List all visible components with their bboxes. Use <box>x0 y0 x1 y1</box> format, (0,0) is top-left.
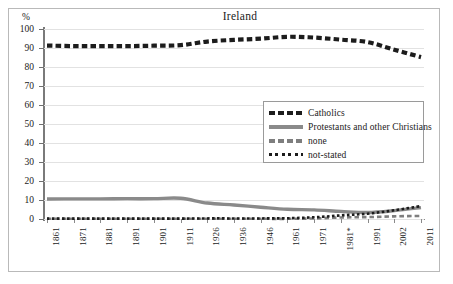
y-axis-tick-label: 60 <box>0 100 34 110</box>
legend-line-sample <box>269 139 303 143</box>
y-axis-tick-label: 70 <box>0 81 34 91</box>
x-axis-tick-mark <box>181 219 182 223</box>
y-axis-tick-label: 30 <box>0 157 34 167</box>
x-axis-tick-label: 1991 <box>372 227 382 246</box>
series-line-protestants-and-other-christians <box>47 198 421 213</box>
legend-line-sample <box>269 125 303 129</box>
x-axis-tick-label: 1861 <box>51 227 61 246</box>
y-axis-tick-label: 0 <box>0 214 34 224</box>
legend-item-catholics[interactable]: Catholics <box>269 106 345 119</box>
x-axis-tick-label: 1901 <box>158 227 168 246</box>
x-axis-tick-mark <box>341 219 342 223</box>
x-axis-tick-label: 2011 <box>425 227 435 245</box>
legend-item-none[interactable]: none <box>269 134 327 147</box>
x-axis-tick-label: 1926 <box>211 227 221 246</box>
x-axis-tick-label: 1911 <box>185 227 195 245</box>
y-axis-tick-label: 100 <box>0 24 34 34</box>
x-axis-tick-label: 1971 <box>318 227 328 246</box>
x-axis-tick-label: 1871 <box>78 227 88 246</box>
chart-figure: Ireland % 1009080706050403020100 1861187… <box>0 0 453 284</box>
legend-item-label: none <box>308 136 327 146</box>
y-axis-unit-label: % <box>22 12 30 22</box>
chart-legend: CatholicsProtestants and other Christian… <box>263 101 424 163</box>
legend-swatch-icon <box>269 121 303 132</box>
y-axis-tick-label: 90 <box>0 43 34 53</box>
x-axis-tick-mark <box>421 219 422 223</box>
legend-item-not-stated[interactable]: not-stated <box>269 148 346 161</box>
x-axis-tick-label: 1946 <box>265 227 275 246</box>
y-axis-tick-label: 50 <box>0 119 34 129</box>
x-axis-tick-mark <box>394 219 395 223</box>
legend-line-sample <box>269 153 303 156</box>
legend-item-protestants-and-other-christians[interactable]: Protestants and other Christians <box>269 120 432 133</box>
x-axis-tick-label: 1881 <box>104 227 114 246</box>
x-axis-tick-mark <box>314 219 315 223</box>
x-axis-tick-label: 1981* <box>345 227 355 251</box>
x-axis-tick-label: 1936 <box>238 227 248 246</box>
x-axis-tick-label: 2002 <box>398 227 408 246</box>
legend-swatch-icon <box>269 107 303 118</box>
x-axis-tick-label: 1961 <box>291 227 301 246</box>
series-line-catholics <box>47 37 421 57</box>
x-axis-tick-mark <box>368 219 369 223</box>
legend-item-label: Catholics <box>308 108 345 118</box>
y-axis-tick-mark <box>39 219 44 220</box>
legend-swatch-icon <box>269 135 303 146</box>
legend-swatch-icon <box>269 149 303 160</box>
y-axis-tick-label: 20 <box>0 176 34 186</box>
legend-line-sample <box>269 111 303 115</box>
legend-item-label: not-stated <box>308 150 346 160</box>
y-axis-tick-label: 80 <box>0 62 34 72</box>
legend-item-label: Protestants and other Christians <box>308 122 432 132</box>
chart-title: Ireland <box>100 10 380 22</box>
y-axis-tick-label: 40 <box>0 138 34 148</box>
x-axis-tick-label: 1891 <box>131 227 141 246</box>
y-axis-tick-label: 10 <box>0 195 34 205</box>
